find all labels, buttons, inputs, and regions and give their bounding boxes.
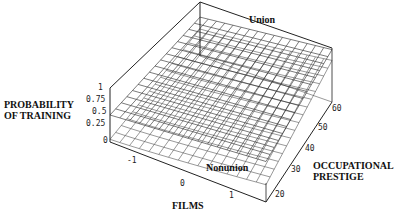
x-tick-1: 1 (229, 191, 234, 200)
y-tick-20: 20 (275, 190, 285, 199)
z-axis-label: PROBABILITY OF TRAINING (4, 99, 74, 121)
y-tick-50: 50 (318, 123, 328, 132)
y-axis-label-line1: OCCUPATIONAL (313, 160, 394, 171)
z-tick-025: 0.25 (86, 119, 105, 128)
z-tick-0: 0 (103, 136, 108, 145)
nonunion-label: Nonunion (206, 162, 248, 173)
y-axis-label: OCCUPATIONAL PRESTIGE (313, 160, 394, 182)
x-axis-label: FILMS (172, 200, 204, 211)
z-tick-05: 0.5 (92, 107, 106, 116)
z-tick-075: 0.75 (86, 95, 105, 104)
y-tick-30: 30 (291, 165, 301, 174)
z-tick-1: 1 (98, 83, 103, 92)
y-tick-60: 60 (332, 104, 342, 113)
x-tick-neg1: -1 (127, 156, 137, 165)
z-axis-label-line2: OF TRAINING (4, 110, 74, 121)
z-axis-label-line1: PROBABILITY (4, 99, 74, 110)
y-tick-40: 40 (305, 144, 315, 153)
x-tick-0: 0 (180, 179, 185, 188)
y-axis-label-line2: PRESTIGE (313, 171, 394, 182)
union-label: Union (249, 14, 275, 25)
